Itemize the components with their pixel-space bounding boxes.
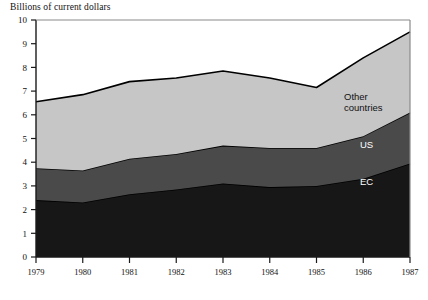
y-tick-label: 10 — [18, 15, 28, 25]
y-tick-label: 0 — [23, 252, 28, 262]
series-label-ec: EC — [360, 176, 373, 187]
y-tick-label: 7 — [23, 86, 28, 96]
y-tick-label: 3 — [23, 181, 28, 191]
x-tick-label: 1985 — [308, 267, 325, 277]
x-tick-label: 1983 — [215, 267, 232, 277]
x-tick-label: 1987 — [402, 267, 419, 277]
area-series-group — [36, 32, 410, 257]
x-tick-label: 1979 — [28, 267, 45, 277]
x-tick-label: 1982 — [168, 267, 185, 277]
y-tick-label: 5 — [23, 134, 28, 144]
y-axis-ticks: 109876543210 — [18, 15, 36, 262]
x-tick-label: 1986 — [355, 267, 372, 277]
stacked-area-chart: 109876543210 197919801981198219831984198… — [0, 0, 428, 300]
x-tick-label: 1980 — [74, 267, 91, 277]
x-tick-label: 1981 — [121, 267, 138, 277]
chart-figure: Billions of current dollars 109876543210… — [0, 0, 428, 300]
y-tick-label: 4 — [23, 157, 28, 167]
y-tick-label: 8 — [23, 63, 28, 73]
y-tick-label: 2 — [23, 205, 28, 215]
y-tick-label: 1 — [23, 229, 28, 239]
x-axis-ticks: 197919801981198219831984198519861987 — [28, 257, 419, 277]
x-tick-label: 1984 — [261, 267, 279, 277]
y-tick-label: 9 — [23, 39, 28, 49]
series-label-us: US — [360, 139, 373, 150]
y-tick-label: 6 — [23, 110, 28, 120]
